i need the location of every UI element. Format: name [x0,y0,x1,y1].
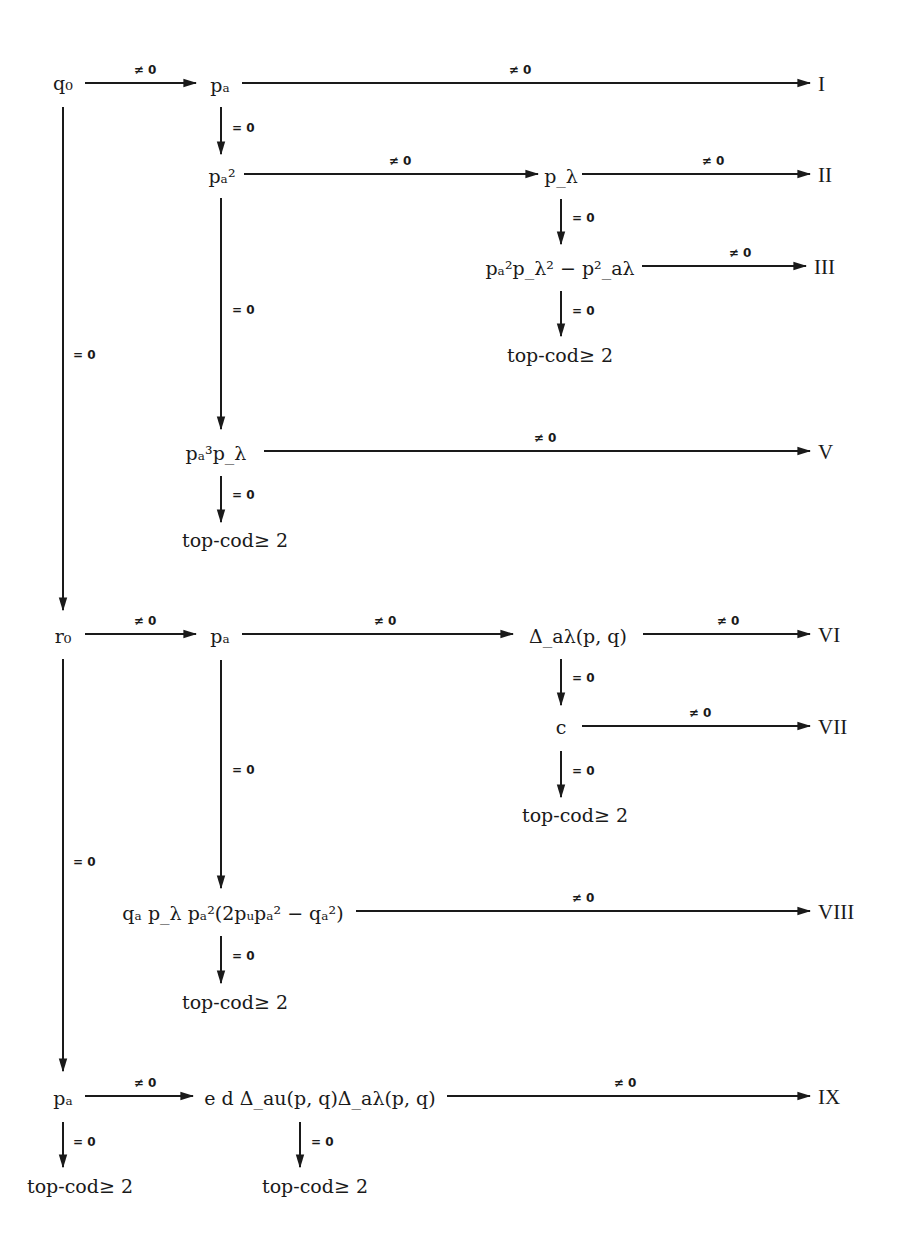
edge-label-pa-pa2: = 0 [232,122,255,134]
node-ed-delta: e d Δ_au(p, q)Δ_aλ(p, q) [204,1089,435,1108]
node-delta-alambda: Δ_aλ(p, q) [529,627,627,646]
edge-label-eddelta-IX: ≠ 0 [614,1077,637,1089]
node-pa3plambda: pₐ³p_λ [186,444,247,463]
node-c: c [556,718,567,737]
edge-label-plambda-minor: = 0 [572,212,595,224]
edge-label-pa3-topcod: = 0 [73,1136,96,1148]
edge-label-pa3-eddelta: ≠ 0 [134,1077,157,1089]
node-pa: pₐ [53,1089,73,1108]
edge-label-eddelta-topcod: = 0 [311,1136,334,1148]
edge-label-pa3plambda-V: ≠ 0 [534,432,557,444]
edge-label-minor-III: ≠ 0 [729,247,752,259]
node-qa-product: qₐ p_λ pₐ²(2pᵤpₐ² − qₐ²) [122,904,343,923]
outcome-II: II [818,165,832,186]
edge-label-minor-topcod: = 0 [572,305,595,317]
edge-label-pa-qaproduct: = 0 [232,764,255,776]
outcome-VIII: VIII [818,902,854,923]
outcome-V: V [818,442,833,463]
outcome-VI: VI [818,625,840,646]
outcome-VII: VII [818,717,847,738]
edge-label-c-VII: ≠ 0 [689,707,712,719]
node-top-cod: top-cod≥ 2 [182,993,288,1012]
edge-label-pa-delta: ≠ 0 [374,615,397,627]
node-top-cod: top-cod≥ 2 [262,1177,368,1196]
outcome-III: III [814,257,835,278]
node-r0: r₀ [55,627,72,646]
edge-label-pa3plambda-topcod: = 0 [232,489,255,501]
edge-label-r0-pa: ≠ 0 [134,615,157,627]
outcome-I: I [818,74,825,95]
node-top-cod: top-cod≥ 2 [507,346,613,365]
edge-label-plambda-II: ≠ 0 [702,155,725,167]
edge-label-qaproduct-topcod: = 0 [232,950,255,962]
edge-label-c-topcod: = 0 [572,765,595,777]
node-top-cod: top-cod≥ 2 [182,531,288,550]
edge-label-pa2-pa3plambda: = 0 [232,304,255,316]
node-top-cod: top-cod≥ 2 [27,1177,133,1196]
edge-label-pa-I: ≠ 0 [509,64,532,76]
node-top-cod: top-cod≥ 2 [522,806,628,825]
edge-label-r0-pa3: = 0 [73,856,96,868]
edge-label-delta-c: = 0 [572,672,595,684]
node-pa: pₐ [210,627,230,646]
node-q0: q₀ [53,74,73,93]
decision-tree-diagram: ≠ 0 ≠ 0 = 0 ≠ 0 ≠ 0 = 0 ≠ 0 = 0 = 0 = 0 … [0,0,908,1251]
edge-label-q0-pa: ≠ 0 [134,64,157,76]
node-plambda: p_λ [544,167,578,186]
node-pa2plambda2-minus: pₐ²p_λ² − p²_aλ [485,259,634,278]
node-pa2: pₐ² [208,167,235,186]
edge-label-delta-VI: ≠ 0 [717,615,740,627]
node-pa: pₐ [210,76,230,95]
outcome-IX: IX [818,1087,840,1108]
edge-label-pa2-plambda: ≠ 0 [389,155,412,167]
edge-label-qaproduct-VIII: ≠ 0 [572,892,595,904]
edge-label-q0-r0: = 0 [73,349,96,361]
